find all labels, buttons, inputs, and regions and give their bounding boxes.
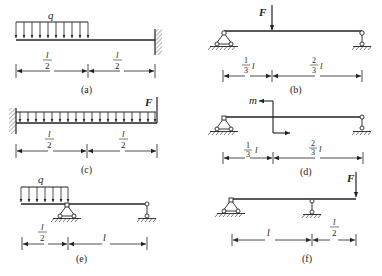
svg-text:3: 3 <box>311 148 315 157</box>
dimension-label-1: l 2 <box>43 50 52 71</box>
pin-support-icon <box>208 116 238 135</box>
svg-text:l: l <box>122 129 125 139</box>
svg-text:l: l <box>116 50 119 60</box>
caption-f: (f) <box>302 253 312 265</box>
roller-support-icon <box>302 199 321 218</box>
dimension-label-2: l <box>103 232 106 243</box>
caption-e: (e) <box>76 253 87 265</box>
svg-text:3: 3 <box>312 66 316 75</box>
caption-c: (c) <box>81 164 92 176</box>
dimension-label-1: 1 3 l <box>242 56 255 75</box>
caption-b: (b) <box>290 84 302 96</box>
figure-e: q <box>21 173 156 265</box>
force-label-F: F <box>144 96 153 108</box>
roller-support-icon <box>352 31 371 50</box>
svg-text:2: 2 <box>45 61 50 71</box>
load-label-q: q <box>48 9 54 21</box>
distributed-load-icon <box>16 22 88 38</box>
svg-text:2: 2 <box>115 61 120 71</box>
roller-support-icon <box>137 202 156 222</box>
dimension-label-1: l 2 <box>38 222 47 243</box>
force-label-F: F <box>346 172 355 184</box>
svg-text:2: 2 <box>311 139 315 148</box>
svg-text:1: 1 <box>246 141 250 150</box>
svg-text:3: 3 <box>246 150 250 159</box>
svg-text:l: l <box>333 217 336 227</box>
svg-text:l: l <box>252 61 255 71</box>
svg-text:l: l <box>255 145 258 155</box>
dimension-lines <box>223 152 363 164</box>
dimension-label-1: l 2 <box>45 129 54 150</box>
fixed-support-icon <box>9 108 16 134</box>
svg-text:l: l <box>41 222 44 232</box>
force-label-F: F <box>258 6 267 18</box>
pin-support-icon <box>51 203 81 222</box>
svg-text:l: l <box>46 50 49 60</box>
roller-support-icon <box>352 115 371 135</box>
figure-f: F <box>215 172 356 265</box>
caption-a: (a) <box>81 84 92 96</box>
dimension-lines <box>16 144 157 158</box>
svg-text:2: 2 <box>312 56 316 65</box>
svg-text:l: l <box>319 144 322 154</box>
svg-text:l: l <box>320 61 323 71</box>
svg-text:2: 2 <box>47 140 52 150</box>
pin-support-icon <box>208 31 238 50</box>
dimension-label-1: l <box>267 227 270 238</box>
svg-text:1: 1 <box>244 56 248 65</box>
svg-text:2: 2 <box>332 228 337 238</box>
figure-a: q l 2 l 2 (a) <box>16 9 162 96</box>
load-label-q: q <box>38 173 44 185</box>
moment-label-m: m <box>249 94 257 106</box>
figure-c: F l 2 l 2 (c) <box>9 96 157 176</box>
dimension-label-2: l 2 <box>330 217 339 238</box>
dimension-label-2: 2 3 l <box>309 139 322 157</box>
dimension-label-2: l 2 <box>119 129 128 150</box>
svg-text:l: l <box>48 129 51 139</box>
caption-d: (d) <box>300 166 312 178</box>
distributed-load-icon <box>16 112 156 122</box>
pin-support-icon <box>215 198 245 217</box>
dimension-label-1: 1 3 l <box>244 141 258 159</box>
dimension-lines <box>232 234 356 246</box>
svg-text:3: 3 <box>244 66 248 75</box>
dimension-label-2: l 2 <box>113 50 122 71</box>
fixed-support-icon <box>155 29 162 55</box>
svg-text:2: 2 <box>121 140 126 150</box>
distributed-load-icon <box>21 187 68 202</box>
dimension-label-2: 2 3 l <box>310 56 323 75</box>
beam-diagrams: q l 2 l 2 (a) F <box>0 0 382 276</box>
figure-d: m <box>208 94 371 178</box>
figure-b: F <box>208 5 371 96</box>
dimension-lines <box>16 64 155 78</box>
svg-text:2: 2 <box>40 233 45 243</box>
